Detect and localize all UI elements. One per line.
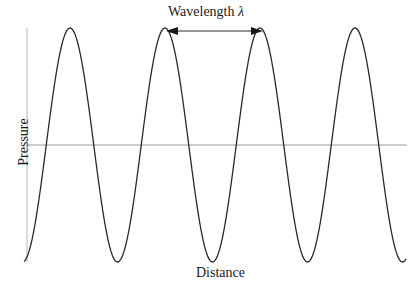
x-axis-label: Distance [196,265,245,281]
y-axis-label: Pressure [16,107,32,177]
wavelength-arrow [166,27,263,35]
wave-diagram: Wavelength λ Distance Pressure [0,0,418,288]
wave-plot [0,0,418,288]
wavelength-label-text: Wavelength [168,4,235,19]
arrowhead-left-icon [166,27,178,35]
lambda-symbol: λ [238,4,244,19]
wavelength-label: Wavelength λ [168,4,244,20]
